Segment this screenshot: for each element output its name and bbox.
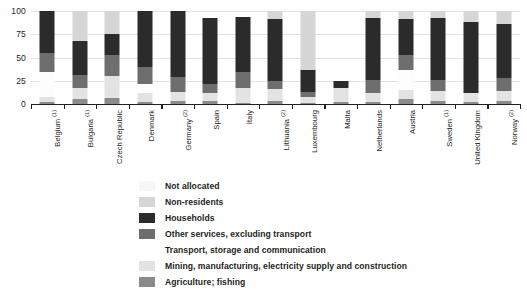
bar-segment [366, 102, 381, 104]
bar-segment [464, 102, 479, 104]
bar-segment [398, 19, 413, 54]
legend-swatch [139, 181, 155, 191]
bar-segment [105, 34, 120, 54]
stacked-bar[interactable] [366, 11, 381, 104]
stacked-bar[interactable] [431, 11, 446, 104]
y-tick-label: 0 [21, 100, 26, 108]
x-tick-label: Luxembourg [311, 110, 319, 153]
x-tick-label: Belgium (1) [50, 110, 62, 147]
x-tick [31, 104, 32, 109]
stacked-bar[interactable] [398, 11, 413, 104]
x-tick-label: Sweden (1) [442, 110, 454, 147]
stacked-bar[interactable] [268, 11, 283, 104]
x-tick-label: Italy [246, 110, 254, 124]
bar-group [292, 11, 325, 104]
legend-item[interactable]: Other services, excluding transport [139, 226, 509, 242]
stacked-bar[interactable] [72, 11, 87, 104]
legend-label: Transport, storage and communication [165, 245, 326, 255]
stacked-bar[interactable] [203, 11, 218, 104]
x-tick-label: Malta [344, 110, 352, 129]
y-axis: 0255075100 [0, 0, 26, 115]
bar-segment [138, 93, 153, 102]
bar-group [357, 11, 390, 104]
stacked-bar[interactable] [496, 11, 511, 104]
legend-item[interactable]: Transport, storage and communication [139, 242, 509, 258]
bar-segment [268, 19, 283, 80]
bar-segment [170, 11, 185, 77]
legend-swatch [139, 213, 155, 223]
x-tick [422, 104, 423, 109]
bar-segment [496, 78, 511, 91]
bar-segment [398, 90, 413, 99]
stacked-bar[interactable] [138, 11, 153, 104]
legend-label: Agriculture; fishing [165, 277, 245, 287]
bar-segment [203, 101, 218, 104]
bar-segment [235, 103, 250, 104]
bar-segment [366, 11, 381, 18]
bar-segment [496, 24, 511, 78]
bar-segment [431, 80, 446, 91]
x-tick [292, 104, 293, 109]
x-tick-label: Germany (2) [181, 110, 193, 151]
bar-segment [72, 41, 87, 75]
bar-segment [235, 17, 250, 73]
legend-label: Not allocated [165, 181, 220, 191]
bar-segment [464, 11, 479, 22]
x-tick-label: Lithuania (2) [279, 110, 291, 150]
bar-segment [268, 89, 283, 101]
bar-segment [105, 11, 120, 34]
x-tick-label: Denmark [148, 110, 156, 141]
legend-item[interactable]: Agriculture; fishing [139, 274, 509, 290]
stacked-bar[interactable] [105, 11, 120, 104]
x-tick-label: Austria [409, 110, 417, 134]
x-tick-label: Netherlands [376, 110, 384, 152]
y-tick-label: 25 [16, 77, 26, 85]
bar-segment [138, 102, 153, 104]
legend-swatch [139, 197, 155, 207]
bar-segment [431, 101, 446, 104]
stacked-bar[interactable] [464, 11, 479, 104]
stacked-bar[interactable] [170, 11, 185, 104]
bar-segment [398, 11, 413, 19]
bar-segment [235, 88, 250, 103]
x-tick [324, 104, 325, 109]
bar-group [96, 11, 129, 104]
stacked-bar[interactable] [40, 11, 55, 104]
legend-item[interactable]: Not allocated [139, 178, 509, 194]
bar-segment [333, 81, 348, 88]
bar-segment [138, 84, 153, 93]
x-tick-label: Bulgaria (1) [83, 110, 95, 147]
legend-item[interactable]: Non-residents [139, 194, 509, 210]
legend-label: Households [165, 213, 215, 223]
x-tick [520, 104, 521, 109]
bar-segment [40, 11, 55, 53]
y-tick-label: 100 [11, 7, 26, 15]
bar-group [487, 11, 520, 104]
legend-swatch [139, 245, 155, 255]
bar-segment [40, 97, 55, 103]
x-tick [227, 104, 228, 109]
bar-segment [203, 93, 218, 101]
bar-segment [333, 102, 348, 104]
legend-item[interactable]: Households [139, 210, 509, 226]
bar-segment [398, 55, 413, 70]
bar-segment [366, 18, 381, 79]
stacked-bar[interactable] [333, 11, 348, 104]
bar-group [194, 11, 227, 104]
stacked-bar[interactable] [235, 11, 250, 104]
legend-item[interactable]: Mining, manufacturing, electricity suppl… [139, 258, 509, 274]
x-axis-line [31, 104, 520, 105]
bar-segment [72, 88, 87, 99]
x-tick [64, 104, 65, 109]
bar-segment [431, 11, 446, 18]
bar-group [455, 11, 488, 104]
y-tick-label: 75 [16, 30, 26, 38]
bar-segment [170, 101, 185, 104]
bar-segment [203, 18, 218, 83]
bar-segment [268, 101, 283, 104]
bar-segment [72, 11, 87, 41]
stacked-bar[interactable] [301, 11, 316, 104]
chart-legend: Not allocatedNon-residentsHouseholdsOthe… [139, 178, 509, 290]
bar-group [161, 11, 194, 104]
